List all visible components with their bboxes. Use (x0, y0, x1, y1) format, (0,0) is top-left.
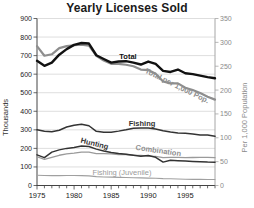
y-left-tick-label: 400 (20, 108, 32, 115)
x-tick-label: 1980 (66, 191, 83, 200)
left-axis-title: Thousands (1, 99, 10, 136)
line-chart: 0100200300400500600700800900050100150200… (0, 0, 254, 208)
series-label-total-per-1-000-pop: Total per 1,000 Pop. (144, 66, 211, 105)
y-left-tick-label: 900 (20, 15, 32, 22)
chart-panel: Yearly Licenses Sold 0100200300400500600… (0, 0, 254, 208)
y-right-tick-label: 50 (220, 158, 228, 165)
y-right-tick-label: 0 (220, 182, 224, 189)
y-left-tick-label: 700 (20, 52, 32, 59)
x-tick-label: 1990 (140, 191, 157, 200)
y-left-tick-label: 100 (20, 163, 32, 170)
y-left-tick-label: 500 (20, 89, 32, 96)
y-right-tick-label: 350 (220, 15, 232, 22)
x-tick-label: 1985 (103, 191, 120, 200)
y-right-tick-label: 250 (220, 63, 232, 70)
y-right-tick-label: 300 (220, 39, 232, 46)
y-axis-right: 050100150200250300350 (215, 15, 232, 189)
y-left-tick-label: 0 (28, 182, 32, 189)
y-left-tick-label: 300 (20, 126, 32, 133)
series-label-fishing: Fishing (129, 119, 156, 128)
right-axis-title: Per 1,000 Population (240, 82, 249, 152)
y-left-tick-label: 600 (20, 71, 32, 78)
y-axis-left: 0100200300400500600700800900 (20, 15, 37, 189)
series-label-total: Total (119, 52, 136, 61)
y-right-tick-label: 150 (220, 110, 232, 117)
x-axis: 19751980198519901995 (29, 186, 215, 200)
y-right-tick-label: 100 (220, 134, 232, 141)
x-tick-label: 1995 (177, 191, 194, 200)
series-label-fishing-juvenile: Fishing (Juvenile) (93, 168, 152, 177)
x-tick-label: 1975 (29, 191, 46, 200)
series-combination (37, 152, 215, 159)
series-labels: TotalTotal per 1,000 Pop.FishingHuntingC… (80, 52, 211, 177)
y-right-tick-label: 200 (220, 87, 232, 94)
y-left-tick-label: 800 (20, 34, 32, 41)
plot-area: 0100200300400500600700800900050100150200… (20, 15, 231, 200)
y-left-tick-label: 200 (20, 145, 32, 152)
